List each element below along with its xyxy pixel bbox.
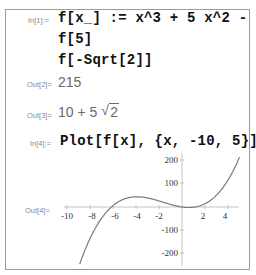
x-tick-label: 4 — [223, 211, 228, 221]
y-tick-label: -200 — [162, 248, 179, 258]
y-tick-label: 100 — [165, 178, 179, 188]
x-tick-label: -6 — [111, 211, 119, 221]
x-tick-label: -4 — [133, 211, 141, 221]
x-tick-label: -10 — [61, 211, 73, 221]
y-tick-label: -100 — [162, 225, 179, 235]
x-tick-label: -8 — [88, 211, 96, 221]
x-tick-label: 2 — [201, 211, 206, 221]
y-tick-label: 200 — [165, 155, 179, 165]
plot-graphic[interactable]: -10 -8 -6 -4 -2 2 4 200 100 -100 -200 — [0, 0, 256, 275]
x-tick-label: -2 — [155, 211, 163, 221]
